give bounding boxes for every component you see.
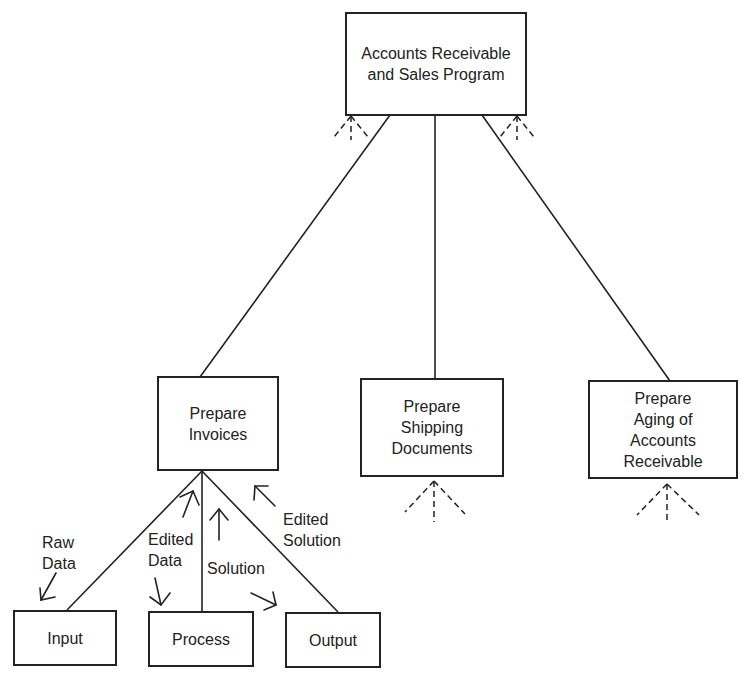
node-label: Process — [172, 629, 230, 650]
root-left-dashed-arrow-icon — [334, 116, 368, 140]
node-accounts-receivable-sales-program: Accounts Receivable and Sales Program — [345, 12, 527, 116]
node-label: Prepare Shipping Documents — [392, 396, 473, 459]
node-input: Input — [13, 610, 117, 666]
node-label: Input — [47, 628, 83, 649]
node-label: Prepare Aging of Accounts Receivable — [623, 388, 702, 472]
node-label: Output — [309, 630, 357, 651]
solution-up-arrow-icon — [210, 509, 228, 540]
label-edited-solution: Edited Solution — [283, 509, 341, 551]
raw-data-arrow-icon — [40, 573, 56, 600]
solution-right-arrow-icon — [251, 592, 276, 610]
shipping-dashed-arrow-icon — [405, 481, 465, 522]
node-prepare-shipping-documents: Prepare Shipping Documents — [360, 378, 504, 477]
node-label: Accounts Receivable and Sales Program — [361, 43, 510, 85]
label-raw-data: Raw Data — [42, 532, 76, 574]
node-process: Process — [148, 611, 254, 667]
root-right-dashed-arrow-icon — [500, 116, 534, 140]
node-output: Output — [285, 612, 381, 668]
label-solution: Solution — [207, 558, 265, 579]
node-label: Prepare Invoices — [189, 403, 248, 445]
edited-data-down-arrow-icon — [150, 578, 170, 605]
edge-root-invoices — [200, 115, 390, 377]
hierarchy-diagram: Accounts Receivable and Sales Program Pr… — [0, 0, 749, 678]
label-edited-data: Edited Data — [148, 529, 193, 571]
edited-solution-arrow-icon — [254, 486, 275, 506]
aging-dashed-arrow-icon — [637, 484, 699, 522]
node-prepare-invoices: Prepare Invoices — [157, 376, 279, 471]
edited-data-up-arrow-icon — [180, 491, 199, 517]
edge-root-aging — [482, 115, 670, 381]
node-prepare-aging: Prepare Aging of Accounts Receivable — [588, 380, 738, 479]
